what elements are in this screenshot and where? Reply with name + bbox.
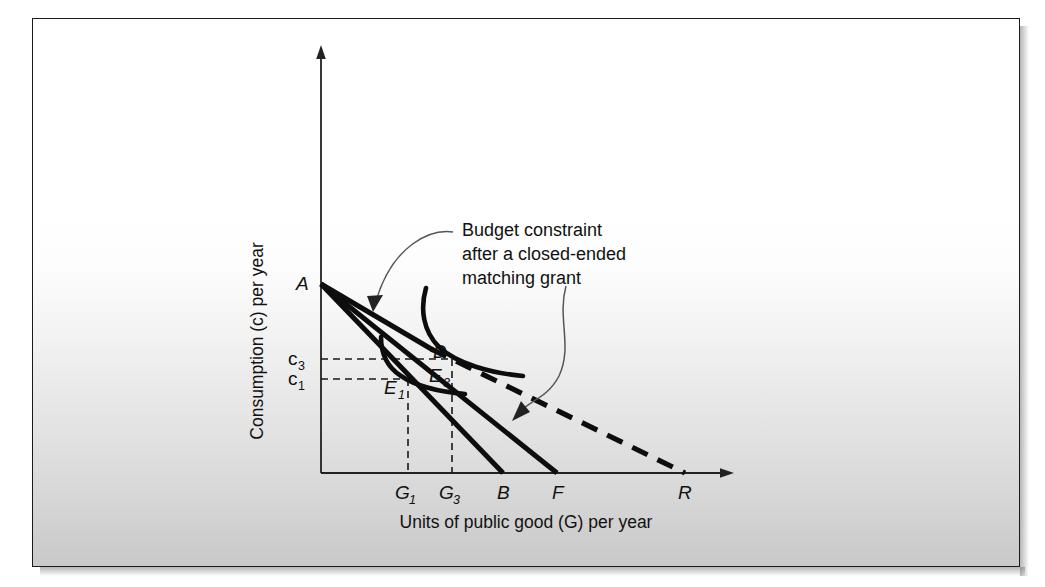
label-E3-base: E [429, 365, 442, 386]
figure-frame: Consumption (c) per year Units of public… [32, 18, 1020, 567]
annotation-arrow-left [376, 232, 453, 301]
frame-drop-shadow-right [1020, 26, 1029, 576]
label-G1-base: G [395, 482, 410, 503]
label-F-base: F [552, 482, 565, 503]
x-axis-title: Units of public good (G) per year [400, 512, 653, 532]
annotation-line-2: after a closed-ended [462, 244, 626, 264]
annotation-arrow-right [519, 286, 566, 413]
label-B: B [497, 482, 510, 503]
label-G3-sub: 3 [453, 493, 460, 507]
label-A-base: A [295, 273, 309, 294]
label-E1-sub: 1 [398, 388, 405, 402]
label-R-base: R [678, 482, 692, 503]
label-G1: G 1 [395, 482, 416, 507]
diagram-canvas: Consumption (c) per year Units of public… [33, 19, 1020, 567]
label-D-base: D [433, 341, 447, 362]
label-F: F [552, 482, 565, 503]
annotation-block: Budget constraint after a closed-ended m… [462, 220, 626, 288]
label-D: D [433, 341, 447, 362]
indifference-curve-3 [423, 288, 523, 376]
label-E3-sub: 3 [443, 376, 450, 390]
annotation-arrow-right-head [512, 401, 530, 421]
label-G3-base: G [439, 482, 454, 503]
label-R: R [678, 482, 692, 503]
indifference-curves-group [381, 288, 523, 394]
budget-line-DR-dashed [431, 349, 685, 473]
x-axis-arrowhead [720, 468, 734, 478]
label-E3: E 3 [429, 365, 450, 390]
label-E1: E 1 [384, 377, 405, 402]
annotation-line-1: Budget constraint [462, 220, 602, 240]
label-G3: G 3 [439, 482, 460, 507]
y-axis-title: Consumption (c) per year [247, 242, 267, 440]
annotation-line-3: matching grant [462, 268, 581, 288]
figure-root: Consumption (c) per year Units of public… [0, 0, 1045, 587]
y-axis-arrowhead [316, 45, 326, 59]
label-B-base: B [497, 482, 510, 503]
frame-drop-shadow-bottom [40, 567, 1025, 576]
label-c1-sub: 1 [298, 379, 305, 393]
label-c3-base: c [288, 348, 298, 369]
label-E1-base: E [384, 377, 397, 398]
label-A: A [295, 273, 309, 294]
annotation-arrow-left-head [367, 295, 383, 312]
label-c3-sub: 3 [298, 359, 305, 373]
label-c1-base: c [288, 368, 298, 389]
label-G1-sub: 1 [409, 493, 416, 507]
